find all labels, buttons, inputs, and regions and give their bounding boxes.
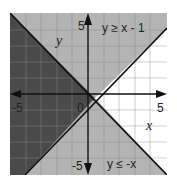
y-axis-label: y — [54, 33, 63, 48]
x-tick-neg5: -5 — [12, 101, 23, 115]
inequality-label-2: y ≤ -x — [107, 157, 136, 171]
origin-label: 0 — [77, 101, 84, 115]
inequality-label-1: y ≥ x - 1 — [102, 21, 145, 35]
y-tick-neg5: -5 — [72, 159, 83, 173]
x-tick-5: 5 — [157, 101, 164, 115]
x-axis-label: x — [145, 118, 153, 133]
inequality-graph: 5 -5 -5 5 0 y x y ≥ x - 1 y ≤ -x — [0, 0, 177, 185]
y-tick-5: 5 — [78, 19, 85, 33]
